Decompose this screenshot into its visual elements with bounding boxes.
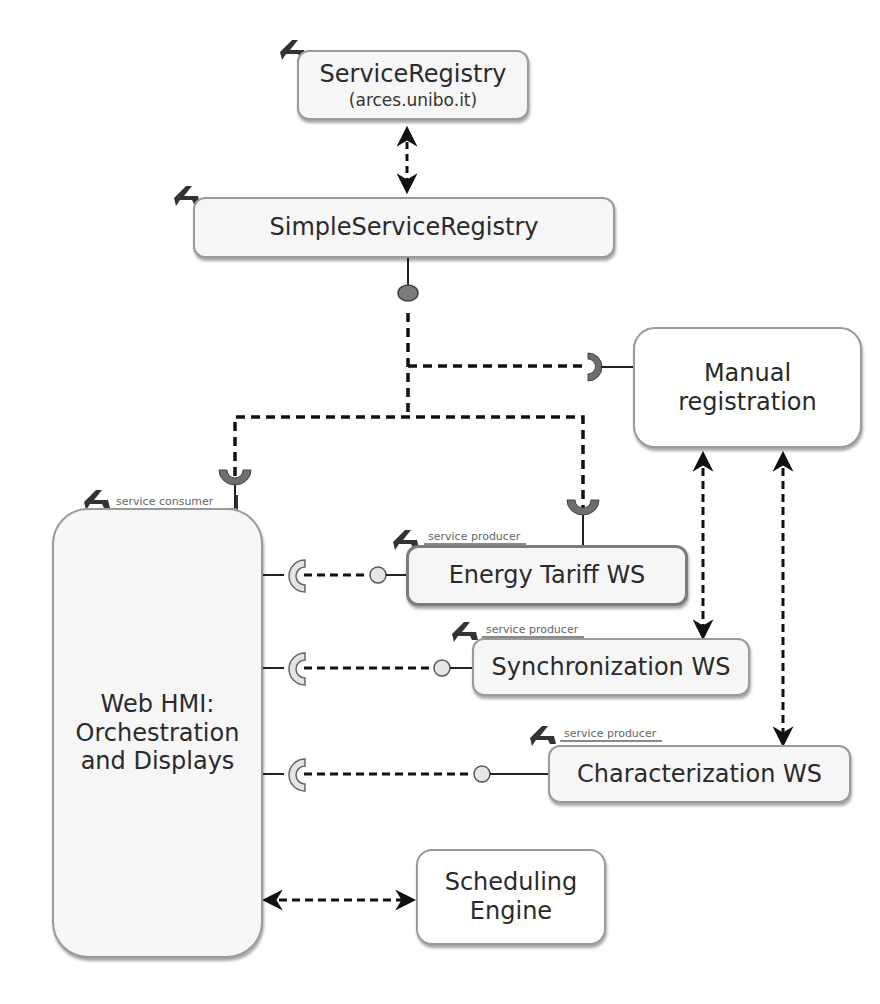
provided-interface-ball-char [474,766,490,782]
energy-tariff-ws-component[interactable]: Energy Tariff WS [406,545,688,606]
component-subtitle: (arces.unibo.it) [349,90,477,110]
component-title: Characterization WS [577,760,822,789]
role-label-service-producer: service producer [560,727,662,742]
component-title-line-2: Orchestration [76,719,240,748]
required-interface-socket-energy-tariff [567,500,599,515]
manual-registration-component[interactable]: Manual registration [633,327,862,448]
required-interface-socket-web-hmi [219,470,251,485]
required-interface-socket-hmi-char [289,759,305,791]
component-title-line-1: Web HMI: [101,690,215,719]
provided-interface-ball-sync [434,660,450,676]
component-title: SimpleServiceRegistry [270,213,539,242]
component-stereotype-icon [528,724,558,748]
web-hmi-component[interactable]: Web HMI: Orchestration and Displays [52,508,263,958]
component-title-line-1: Manual [704,359,791,388]
component-title-line-3: and Displays [81,747,235,776]
role-label-service-producer: service producer [424,530,526,545]
component-title: Energy Tariff WS [449,561,646,590]
required-interface-socket-hmi-sync [289,653,305,685]
provided-interface-ball [398,285,418,301]
required-interface-socket-manual [588,353,602,381]
simple-service-registry-component[interactable]: SimpleServiceRegistry [193,197,615,258]
component-title-line-2: Engine [470,897,552,926]
characterization-ws-component[interactable]: Characterization WS [548,745,851,803]
required-interface-socket-hmi-energy [289,560,305,592]
component-title: ServiceRegistry [320,60,507,89]
role-label-service-producer: service producer [482,623,584,638]
component-title-line-1: Scheduling [445,868,578,897]
service-registry-component[interactable]: ServiceRegistry (arces.unibo.it) [297,50,529,120]
synchronization-ws-component[interactable]: Synchronization WS [472,638,750,696]
component-title-line-2: registration [678,388,816,417]
provided-interface-ball-energy [370,567,386,583]
scheduling-engine-component[interactable]: Scheduling Engine [416,849,606,945]
component-title: Synchronization WS [492,653,731,682]
